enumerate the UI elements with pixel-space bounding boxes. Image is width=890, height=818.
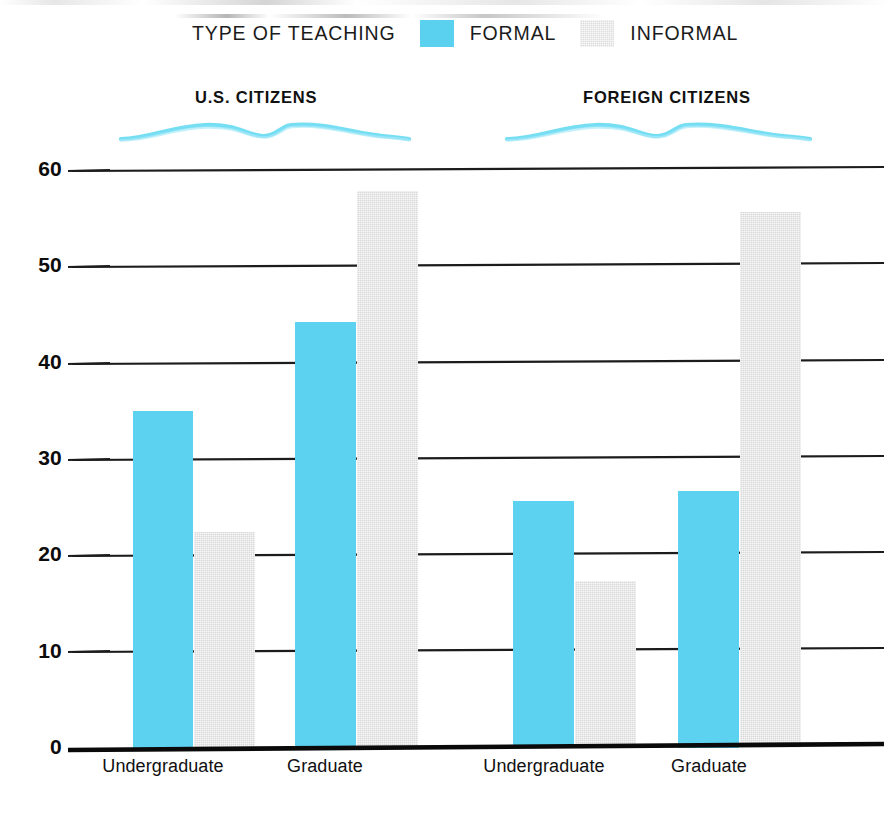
bar-us-graduate-informal bbox=[357, 191, 418, 748]
bar-foreign-graduate-informal bbox=[740, 212, 801, 748]
x-tick-label-1: Graduate bbox=[255, 756, 395, 777]
y-tick-10: 10 bbox=[18, 639, 62, 663]
y-tick-label-30: 30 bbox=[18, 446, 62, 470]
y-tick-label-60: 60 bbox=[18, 157, 62, 181]
y-tick-60: 60 bbox=[18, 157, 62, 181]
bar-us-undergraduate-formal bbox=[133, 411, 193, 748]
y-tick-20: 20 bbox=[18, 542, 62, 566]
x-tick-label-0: Undergraduate bbox=[93, 756, 233, 777]
y-tick-label-20: 20 bbox=[18, 542, 62, 566]
bar-us-graduate-formal bbox=[295, 322, 356, 748]
plot-area: 0102030405060 UndergraduateGraduateUnder… bbox=[0, 0, 890, 818]
y-tick-label-50: 50 bbox=[18, 253, 62, 277]
y-tick-label-0: 0 bbox=[18, 735, 62, 759]
chart-root: TYPE OF TEACHING FORMAL INFORMAL U.S. CI… bbox=[0, 0, 890, 818]
y-tick-30: 30 bbox=[18, 446, 62, 470]
bar-foreign-undergraduate-informal bbox=[575, 581, 636, 748]
y-tick-0: 0 bbox=[18, 735, 62, 759]
y-tick-label-10: 10 bbox=[18, 639, 62, 663]
bar-foreign-graduate-formal bbox=[678, 491, 739, 748]
bar-us-undergraduate-informal bbox=[194, 532, 255, 748]
y-tick-50: 50 bbox=[18, 253, 62, 277]
y-tick-40: 40 bbox=[18, 350, 62, 374]
x-tick-label-2: Undergraduate bbox=[474, 756, 614, 777]
x-tick-label-3: Graduate bbox=[639, 756, 779, 777]
bar-foreign-undergraduate-formal bbox=[513, 501, 574, 748]
bars-layer bbox=[0, 0, 890, 748]
y-tick-label-40: 40 bbox=[18, 350, 62, 374]
